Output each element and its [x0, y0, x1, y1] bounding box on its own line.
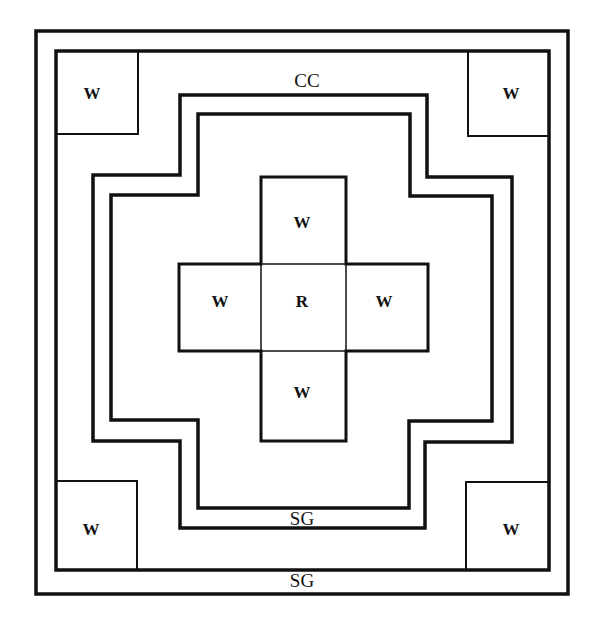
label-sg-inner: SG [290, 508, 315, 529]
diagram-canvas: W W W W W W R W W CC SG SG [0, 0, 596, 623]
label-corner-tl: W [84, 84, 101, 103]
label-corner-bl: W [83, 520, 100, 539]
label-cross-left: W [212, 292, 229, 311]
label-center: R [296, 292, 309, 311]
outer-cross-wall [93, 95, 512, 528]
label-cross-top: W [294, 213, 311, 232]
label-cross-right: W [376, 292, 393, 311]
label-cc: CC [294, 70, 319, 91]
inner-cross-wall [111, 114, 492, 508]
label-corner-tr: W [503, 84, 520, 103]
label-cross-bottom: W [294, 383, 311, 402]
label-sg-outer: SG [290, 570, 315, 591]
label-corner-br: W [503, 520, 520, 539]
